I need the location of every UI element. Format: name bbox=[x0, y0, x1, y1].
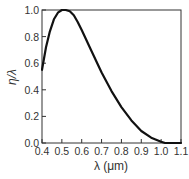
x-axis-label: λ (μm) bbox=[94, 159, 128, 173]
y-tick-label: 0.6 bbox=[24, 57, 39, 69]
y-tick-label: 0.2 bbox=[24, 110, 39, 122]
x-tick-label: 0.4 bbox=[35, 145, 50, 157]
x-tick-label: 0.8 bbox=[114, 145, 129, 157]
chart: 0.00.20.40.60.81.0 0.40.50.60.70.80.91.0… bbox=[0, 0, 189, 179]
x-tick-label: 0.6 bbox=[74, 145, 89, 157]
efficiency-curve bbox=[42, 10, 181, 143]
x-tick-label: 0.9 bbox=[134, 145, 149, 157]
x-tick-label: 0.5 bbox=[55, 145, 70, 157]
y-tick-label: 1.0 bbox=[24, 4, 39, 16]
y-tick-label: 0.8 bbox=[24, 31, 39, 43]
x-tick-label: 1.1 bbox=[174, 145, 189, 157]
x-tick-label: 1.0 bbox=[154, 145, 169, 157]
y-axis-label: η/λ bbox=[5, 69, 19, 85]
plot-frame bbox=[42, 10, 181, 143]
x-tick-label: 0.7 bbox=[94, 145, 109, 157]
x-axis-ticks: 0.40.50.60.70.80.91.01.1 bbox=[35, 139, 189, 157]
y-tick-label: 0.4 bbox=[24, 84, 39, 96]
y-axis-ticks: 0.00.20.40.60.81.0 bbox=[24, 4, 46, 149]
